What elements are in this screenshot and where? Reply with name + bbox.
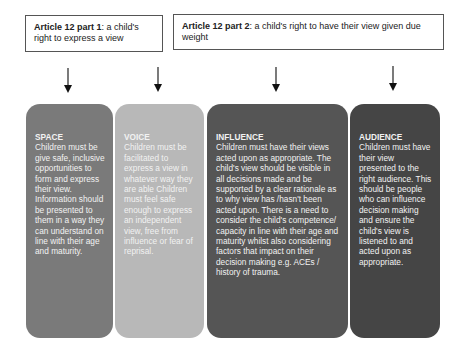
arrow-down-icon xyxy=(388,66,398,92)
arrow-down-icon xyxy=(63,68,73,94)
influence-column: INFLUENCE Children must have their views… xyxy=(207,104,348,338)
influence-body: Children must have their views acted upo… xyxy=(216,142,338,277)
space-column: SPACE Children must be give safe, inclus… xyxy=(26,104,113,338)
voice-title: VOICE xyxy=(124,132,196,142)
article-12-part-1-box: Article 12 part 1: a child's right to ex… xyxy=(25,15,163,52)
space-title: SPACE xyxy=(35,132,105,142)
arrow-down-icon xyxy=(271,67,281,93)
article-12-part-1-label: Article 12 part 1 xyxy=(34,22,102,32)
arrow-down-icon xyxy=(153,67,163,93)
audience-body: Children must have their view presented … xyxy=(359,142,431,266)
audience-column: AUDIENCE Children must have their view p… xyxy=(350,104,440,338)
audience-title: AUDIENCE xyxy=(359,132,432,142)
article-12-part-2-box: Article 12 part 2: a child's right to ha… xyxy=(173,14,444,50)
space-body: Children must be give safe, inclusive op… xyxy=(35,142,105,256)
voice-column: VOICE Children must be facilitated to ex… xyxy=(115,104,204,338)
voice-body: Children must be facilitated to express … xyxy=(124,142,193,256)
article-12-part-2-label: Article 12 part 2 xyxy=(182,21,250,31)
influence-title: INFLUENCE xyxy=(216,132,340,142)
